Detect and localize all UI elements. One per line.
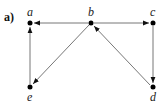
edge-b-e	[33, 25, 89, 84]
directed-graph: a) a b c d e	[0, 0, 163, 108]
node-c	[151, 21, 156, 26]
node-label-a: a	[27, 5, 33, 19]
node-label-c: c	[150, 5, 156, 19]
node-b	[89, 21, 94, 26]
node-a	[28, 21, 33, 26]
node-label-b: b	[88, 5, 94, 19]
node-e	[28, 85, 33, 90]
node-label-d: d	[150, 90, 157, 104]
node-label-e: e	[27, 90, 33, 104]
node-d	[151, 85, 156, 90]
part-label: a)	[4, 10, 14, 24]
edge-d-b	[94, 26, 150, 85]
